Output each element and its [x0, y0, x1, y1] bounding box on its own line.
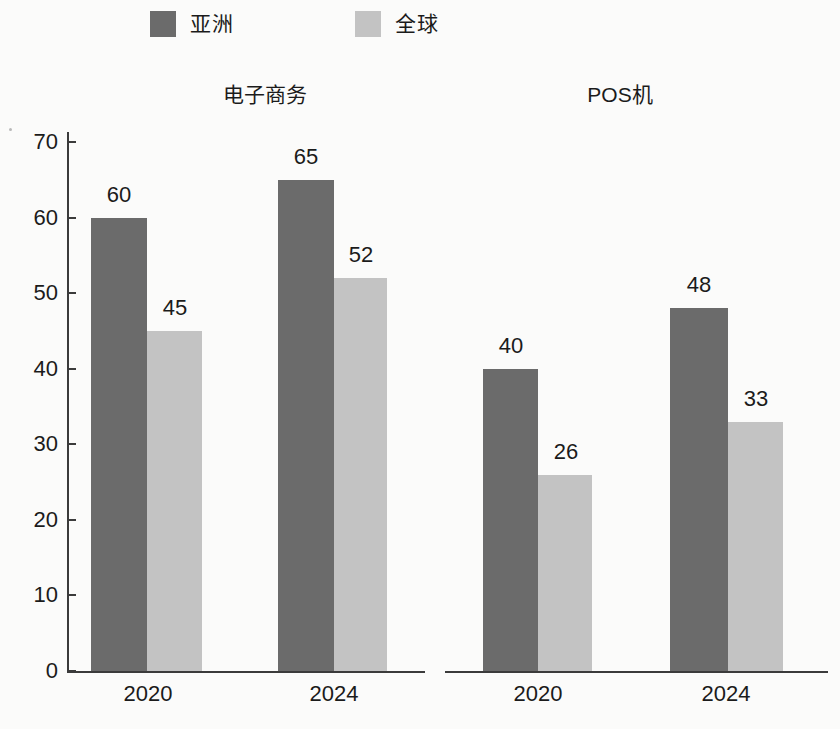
y-axis-tick — [67, 141, 76, 143]
bar-value-label: 65 — [276, 146, 336, 168]
y-axis-tick-label: 40 — [12, 358, 58, 380]
y-axis-tick-label: 60 — [12, 207, 58, 229]
y-axis-tick — [67, 368, 76, 370]
plot-area: 010203040506070 6045655240264833 2020202… — [0, 0, 840, 729]
y-axis-tick-label: 20 — [12, 509, 58, 531]
bar-global-2020 — [147, 331, 202, 671]
chart-figure: 亚洲 全球 电子商务 POS机 010203040506070 60456552… — [0, 0, 840, 729]
bar-value-label: 26 — [536, 441, 596, 463]
y-axis-tick-label: 70 — [12, 131, 58, 153]
bar-value-label: 60 — [89, 184, 149, 206]
bar-value-label: 45 — [145, 297, 205, 319]
y-axis-tick-label: 0 — [12, 660, 58, 682]
bar-value-label: 48 — [669, 274, 729, 296]
y-axis-tick-label: 10 — [12, 584, 58, 606]
x-axis-tick-label: 2024 — [668, 681, 784, 707]
bar-asia-2020 — [91, 218, 147, 671]
bar-asia-2020 — [483, 369, 538, 671]
y-axis-tick — [67, 217, 76, 219]
bar-asia-2024 — [278, 180, 334, 671]
y-axis-tick — [67, 519, 76, 521]
bar-global-2024 — [728, 422, 783, 671]
y-axis-tick-label: 30 — [12, 433, 58, 455]
x-axis-line-panel-pos — [445, 671, 828, 673]
bar-asia-2024 — [670, 308, 728, 671]
y-axis-tick — [67, 292, 76, 294]
bar-global-2024 — [334, 278, 387, 671]
y-axis-tick — [67, 670, 76, 672]
bar-value-label: 33 — [726, 388, 786, 410]
bar-value-label: 40 — [481, 335, 541, 357]
x-axis-tick-label: 2020 — [90, 681, 206, 707]
bar-value-label: 52 — [331, 244, 391, 266]
bar-global-2020 — [538, 475, 592, 671]
x-axis-tick-label: 2024 — [276, 681, 392, 707]
y-axis-tick — [67, 594, 76, 596]
y-axis-line — [67, 132, 69, 672]
y-axis-tick-label: 50 — [12, 282, 58, 304]
x-axis-tick-label: 2020 — [480, 681, 596, 707]
y-axis-tick — [67, 443, 76, 445]
x-axis-line-panel-ecommerce — [67, 671, 425, 673]
